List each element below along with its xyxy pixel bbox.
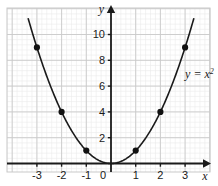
data-point	[59, 109, 65, 115]
y-tick-label: 4	[99, 106, 105, 118]
data-point	[34, 44, 40, 50]
data-point	[83, 148, 89, 154]
equation-base: y = x	[184, 67, 210, 81]
x-tick-label: 1	[133, 169, 139, 181]
x-tick-label: 2	[157, 169, 163, 181]
data-point	[157, 109, 163, 115]
equation-exponent: 2	[210, 67, 214, 76]
x-tick-label: -2	[57, 169, 67, 181]
equation-annotation: y = x2	[184, 67, 214, 81]
y-tick-label: 6	[99, 80, 105, 92]
x-tick-label: 0	[100, 169, 106, 181]
y-tick-label: 8	[99, 54, 105, 66]
y-tick-label: 2	[99, 132, 105, 144]
y-axis-label: y	[98, 2, 105, 16]
y-tick-label: 10	[93, 28, 105, 40]
x-tick-label: -1	[81, 169, 91, 181]
chart-svg: -3-2-10123 246810 x y y = x2	[0, 0, 218, 186]
data-point	[182, 44, 188, 50]
x-axis-label: x	[201, 169, 208, 183]
parabola-chart: -3-2-10123 246810 x y y = x2	[0, 0, 218, 186]
x-tick-label: -3	[32, 169, 42, 181]
x-tick-label: 3	[182, 169, 188, 181]
data-point	[133, 148, 139, 154]
